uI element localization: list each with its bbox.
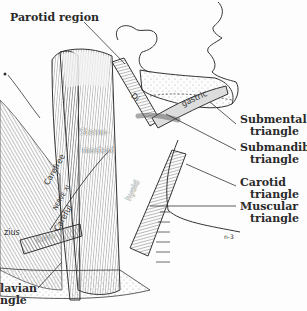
label-line2: triangle (240, 213, 299, 225)
anatomy-figure: Parotid region Submental triangle Subman… (0, 0, 307, 311)
artist-signature: n-3 (224, 233, 234, 240)
muscle-label-mastoid: mastoid (82, 146, 114, 155)
label-submandibular-triangle: Submandib. triangle (240, 142, 307, 166)
label-parotid-region: Parotid region (10, 12, 99, 24)
label-muscular-triangle: Muscular triangle (240, 201, 299, 225)
label-subclavian-triangle: lavian ngle (0, 283, 37, 307)
label-carotid-triangle: Carotid triangle (240, 177, 299, 201)
label-text: Parotid region (10, 11, 99, 24)
muscle-label-trapezius: zius (4, 228, 20, 237)
label-line2: triangle (240, 126, 307, 138)
omohyoid-superior (130, 150, 186, 256)
label-line2: ngle (0, 295, 37, 307)
label-submental-triangle: Submental triangle (240, 114, 307, 138)
trapezius (0, 100, 62, 290)
label-line2: triangle (240, 154, 307, 166)
muscle-label-sterno: Sterno- (80, 128, 109, 137)
